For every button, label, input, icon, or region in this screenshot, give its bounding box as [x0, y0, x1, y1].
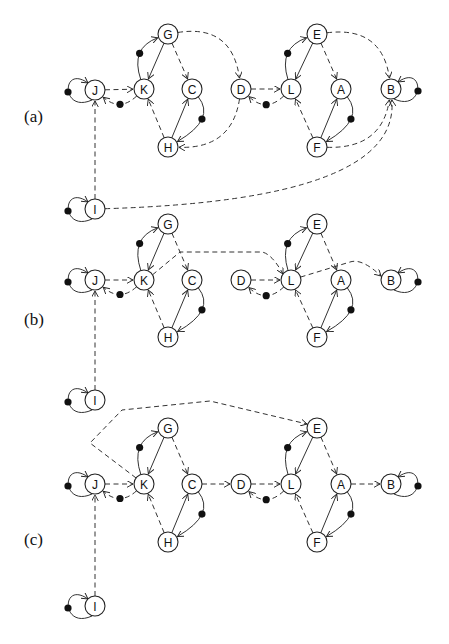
node-label: I — [93, 394, 96, 408]
edge-c-K-E — [90, 401, 307, 478]
edge-tail-dot-icon — [347, 115, 354, 122]
edge-c-F-L — [295, 494, 312, 533]
loop-tail-dot-icon — [64, 207, 71, 214]
edge-a-G-D — [178, 31, 240, 78]
edge-c-G-K — [148, 437, 164, 474]
edge-b-H-K — [148, 290, 164, 328]
causal-graph-figure: JKGCHDLEAFBIGJKCHDLEAFBIGJKCHDLEAFBI (a)… — [0, 0, 449, 644]
edge-tail-dot-icon — [284, 50, 291, 57]
node-label: C — [188, 274, 197, 288]
edge-tail-dot-icon — [347, 510, 354, 517]
node-b-J: J — [85, 270, 105, 290]
edge-tail-dot-icon — [347, 306, 354, 313]
loop-tail-dot-icon — [414, 87, 421, 94]
node-a-F: F — [307, 137, 327, 157]
node-label: A — [337, 478, 345, 492]
edge-tail-dot-icon — [263, 496, 270, 503]
edge-c-F-A — [321, 494, 337, 533]
edge-a-G-K — [148, 43, 164, 79]
edge-tail-dot-icon — [198, 306, 205, 313]
node-c-K: K — [134, 474, 154, 494]
node-b-K: K — [134, 270, 154, 290]
node-label: L — [288, 83, 295, 97]
node-label: K — [140, 274, 148, 288]
node-c-B: B — [381, 474, 401, 494]
node-label: H — [164, 536, 173, 550]
edge-tail-dot-icon — [198, 510, 205, 517]
node-label: K — [140, 478, 148, 492]
edge-a-E-B — [327, 32, 390, 78]
node-c-C: C — [182, 474, 202, 494]
edge-tail-dot-icon — [263, 292, 270, 299]
edge-a-J-K — [105, 89, 133, 90]
node-label: D — [237, 478, 246, 492]
node-label: C — [188, 478, 197, 492]
node-b-H: H — [158, 327, 178, 347]
edge-tail-dot-icon — [136, 444, 143, 451]
edge-a-E-A — [321, 43, 337, 79]
loop-tail-dot-icon — [414, 482, 421, 489]
edge-b-F-A — [321, 290, 337, 328]
node-c-H: H — [158, 532, 178, 552]
edge-tail-dot-icon — [198, 115, 205, 122]
edge-a-F-L — [295, 99, 312, 138]
edge-a-D-H — [179, 99, 240, 148]
panel-label-c: (c) — [24, 530, 43, 549]
node-c-L: L — [281, 474, 301, 494]
edge-a-E-L — [296, 43, 313, 79]
edge-b-G-K — [148, 233, 164, 270]
node-label: A — [337, 83, 345, 97]
node-b-I: I — [85, 390, 105, 410]
edge-b-K-G — [138, 228, 158, 271]
node-label: D — [237, 83, 246, 97]
node-label: G — [163, 28, 172, 42]
panel-label-b: (b) — [24, 310, 44, 329]
edge-tail-dot-icon — [284, 240, 291, 247]
edge-b-E-A — [321, 233, 337, 270]
node-c-A: A — [331, 474, 351, 494]
node-label: E — [313, 28, 321, 42]
panel-label-a: (a) — [24, 107, 43, 126]
node-label: L — [288, 274, 295, 288]
edge-a-F-A — [321, 99, 337, 138]
loop-tail-dot-icon — [414, 278, 421, 285]
graph-svg: JKGCHDLEAFBIGJKCHDLEAFBIGJKCHDLEAFBI (a)… — [0, 0, 449, 644]
edge-b-H-C — [172, 290, 188, 328]
node-b-G: G — [158, 214, 178, 234]
loop-tail-dot-icon — [64, 278, 71, 285]
node-label: E — [313, 422, 321, 436]
node-label: B — [387, 478, 395, 492]
node-label: H — [164, 141, 173, 155]
node-c-J: J — [85, 474, 105, 494]
node-a-B: B — [381, 79, 401, 99]
edge-b-L-E — [285, 228, 306, 271]
node-label: I — [93, 203, 96, 217]
edge-tail-dot-icon — [116, 291, 123, 298]
edge-c-K-G — [138, 432, 158, 475]
node-c-E: E — [307, 418, 327, 438]
loop-tail-dot-icon — [64, 604, 71, 611]
node-label: G — [163, 218, 172, 232]
node-label: G — [163, 422, 172, 436]
node-c-I: I — [85, 596, 105, 616]
node-a-D: D — [231, 79, 251, 99]
edge-c-L-E — [285, 432, 306, 475]
node-label: J — [92, 84, 98, 98]
node-label: F — [313, 331, 320, 345]
node-b-E: E — [307, 214, 327, 234]
edge-a-H-C — [172, 99, 188, 138]
node-a-G: G — [158, 24, 178, 44]
node-a-E: E — [307, 24, 327, 44]
edges-layer — [64, 31, 421, 618]
edge-tail-dot-icon — [263, 101, 270, 108]
edge-c-E-L — [296, 437, 313, 474]
edge-a-G-C — [172, 43, 188, 79]
node-a-A: A — [331, 79, 351, 99]
edge-tail-dot-icon — [116, 101, 123, 108]
edge-b-E-L — [296, 233, 313, 270]
node-label: I — [93, 600, 96, 614]
node-label: J — [92, 478, 98, 492]
node-label: B — [387, 83, 395, 97]
node-label: F — [313, 141, 320, 155]
edge-b-K-L — [153, 252, 283, 275]
